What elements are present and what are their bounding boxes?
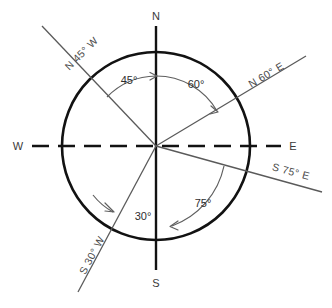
cardinal-label-west: W xyxy=(13,140,24,152)
cardinal-label-north: N xyxy=(152,10,160,22)
bearing-line-n45w xyxy=(42,26,156,146)
compass-bearing-diagram: N S W E N 45° W N 60° E S 75° E S 30° W … xyxy=(0,0,332,308)
cardinal-label-east: E xyxy=(289,140,296,152)
bearing-label-s75e: S 75° E xyxy=(271,160,311,182)
angle-label-60: 60° xyxy=(188,78,205,90)
compass-diagram-canvas: N S W E N 45° W N 60° E S 75° E S 30° W … xyxy=(0,0,332,308)
angle-arc-30 xyxy=(93,195,113,212)
angle-arc-60 xyxy=(156,76,217,111)
angle-label-45: 45° xyxy=(121,74,138,86)
angle-label-75: 75° xyxy=(195,197,212,209)
bearing-label-s30w: S 30° W xyxy=(76,234,106,276)
angle-label-30: 30° xyxy=(135,210,152,222)
cardinal-label-south: S xyxy=(152,277,159,289)
bearing-label-n60e: N 60° E xyxy=(246,59,286,89)
